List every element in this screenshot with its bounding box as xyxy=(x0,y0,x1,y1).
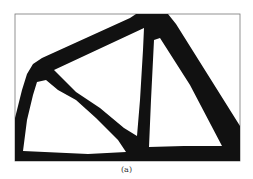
topology-optimization-image xyxy=(0,0,253,179)
figure-label: (a) xyxy=(0,165,253,174)
